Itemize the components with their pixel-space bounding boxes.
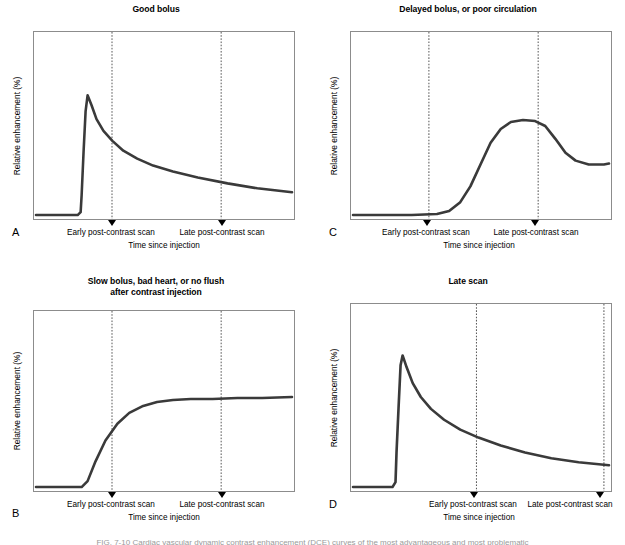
panel-c-letter: C xyxy=(329,226,337,238)
panel-c-plot-area xyxy=(350,31,612,220)
panel-b-letter: B xyxy=(12,507,19,519)
panel-a-title: Good bolus xyxy=(0,4,312,15)
panel-d-curve xyxy=(353,355,609,487)
panel-b-plot-area xyxy=(33,310,295,492)
panel-a-plot-svg xyxy=(34,32,294,219)
panel-a-ylabel: Relative enhancement (%) xyxy=(10,31,24,220)
panel-a-plot-area xyxy=(33,31,295,220)
panel-a-early-marker-arrow xyxy=(108,220,116,226)
panel-b-title-line1: Slow bolus, bad heart, or no flush xyxy=(0,276,312,287)
panel-b-title-line2: after contrast injection xyxy=(0,287,312,298)
panel-b-title: Slow bolus, bad heart, or no flush after… xyxy=(0,276,312,297)
panel-a-curve xyxy=(36,95,292,215)
panel-a-early-marker-label: Early post-contrast scan xyxy=(67,228,155,237)
figure-dce-curves: Good bolus Relative enhancement (%) Earl… xyxy=(0,0,625,545)
panel-a: Good bolus Relative enhancement (%) Earl… xyxy=(0,0,312,272)
panel-b-early-marker-label: Early post-contrast scan xyxy=(67,500,155,509)
panel-a-letter: A xyxy=(12,226,19,238)
panel-c-late-marker-arrow xyxy=(531,220,539,226)
panel-d-xlabel: Time since injection xyxy=(443,513,515,522)
panel-b-late-marker-arrow xyxy=(218,492,226,498)
panel-a-late-marker-label: Late post-contrast scan xyxy=(179,228,264,237)
panel-b: Slow bolus, bad heart, or no flush after… xyxy=(0,272,312,544)
panel-a-xlabel: Time since injection xyxy=(128,241,200,250)
panel-d-title: Late scan xyxy=(312,276,624,287)
panel-d: Late scan Relative enhancement (%) Early… xyxy=(312,272,624,544)
panel-c-title: Delayed bolus, or poor circulation xyxy=(312,4,624,15)
panel-d-early-marker-label: Early post-contrast scan xyxy=(429,500,517,509)
panel-c-early-marker-arrow xyxy=(423,220,431,226)
panel-c-early-marker-label: Early post-contrast scan xyxy=(382,228,470,237)
panel-b-early-marker-arrow xyxy=(108,492,116,498)
panel-c-late-marker-label: Late post-contrast scan xyxy=(493,228,578,237)
panel-c-xlabel: Time since injection xyxy=(443,241,515,250)
figure-caption: FIG. 7-10 Cardiac vascular dynamic contr… xyxy=(0,537,625,545)
panel-d-ylabel: Relative enhancement (%) xyxy=(327,303,341,492)
panel-d-letter: D xyxy=(329,498,337,510)
panel-d-plot-area xyxy=(350,303,612,492)
panel-b-ylabel: Relative enhancement (%) xyxy=(10,310,24,492)
panel-b-curve xyxy=(36,397,292,487)
panel-c-ylabel: Relative enhancement (%) xyxy=(327,31,341,220)
panel-a-late-marker-arrow xyxy=(218,220,226,226)
panel-d-late-marker-label: Late post-contrast scan xyxy=(527,500,612,509)
panel-c-curve xyxy=(353,120,609,215)
panel-d-early-marker-arrow xyxy=(470,492,478,498)
panel-c-plot-svg xyxy=(351,32,611,219)
panel-b-late-marker-label: Late post-contrast scan xyxy=(179,500,264,509)
panel-c: Delayed bolus, or poor circulation Relat… xyxy=(312,0,624,272)
panel-d-late-marker-arrow xyxy=(596,492,604,498)
panel-b-xlabel: Time since injection xyxy=(128,513,200,522)
panel-d-plot-svg xyxy=(351,304,611,491)
panel-b-plot-svg xyxy=(34,311,294,491)
